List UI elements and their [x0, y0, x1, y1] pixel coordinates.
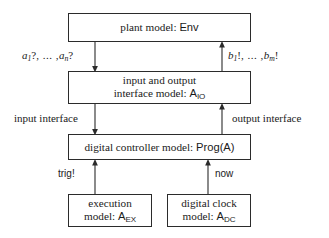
box-execution-model-line1: execution: [88, 197, 132, 210]
box-plant-model-name: Env: [179, 21, 198, 33]
box-digital-controller-model-name: Prog(A): [196, 141, 235, 153]
box-io-interface-model-label: interface model:: [114, 87, 190, 99]
output-signal-ellipsis: , ... ,: [241, 49, 264, 61]
box-digital-controller-model[interactable]: digital controller model: Prog(A): [68, 134, 251, 160]
edge-label-output-interface: output interface: [232, 113, 301, 124]
box-io-interface-model-subscript: IO: [197, 92, 205, 101]
box-digital-controller-model-label: digital controller model:: [84, 141, 196, 153]
input-signal-ellipsis: , ... ,: [36, 49, 59, 61]
box-plant-model-label: plant model:: [120, 21, 179, 33]
box-io-interface-model-line2: interface model: AIO: [114, 87, 206, 101]
box-execution-model-subscript: EX: [125, 215, 136, 224]
box-io-interface-model-line1: input and output: [123, 74, 196, 87]
box-io-interface-model[interactable]: input and output interface model: AIO: [68, 71, 251, 104]
box-digital-clock-model-subscript: DC: [224, 215, 235, 224]
edge-label-input-signals: a1?, ... ,an?: [22, 50, 73, 63]
output-signal-op-last: !: [275, 49, 279, 61]
box-digital-clock-model-line2: model: ADC: [183, 210, 236, 224]
box-execution-model[interactable]: execution model: AEX: [68, 194, 152, 227]
edge-label-now: now: [215, 169, 233, 179]
box-execution-model-line2: model: AEX: [84, 210, 136, 224]
box-io-interface-model-name: A: [190, 87, 197, 99]
box-digital-clock-model-line1: digital clock: [181, 197, 237, 210]
edge-label-trig: trig!: [58, 169, 75, 179]
edge-label-output-signals: b1!, ... ,bm!: [228, 50, 279, 63]
box-plant-model-text: plant model: Env: [120, 21, 198, 34]
box-digital-clock-model[interactable]: digital clock model: ADC: [167, 194, 251, 227]
box-execution-model-label: model:: [84, 210, 118, 222]
box-plant-model[interactable]: plant model: Env: [68, 13, 251, 42]
box-digital-clock-model-label: model:: [183, 210, 217, 222]
input-signal-op-last: ?: [68, 49, 73, 61]
edge-label-input-interface: input interface: [14, 113, 78, 124]
box-digital-clock-model-name: A: [216, 210, 223, 222]
diagram-canvas: plant model: Env input and output interf…: [0, 0, 329, 238]
box-digital-controller-model-text: digital controller model: Prog(A): [84, 141, 234, 154]
